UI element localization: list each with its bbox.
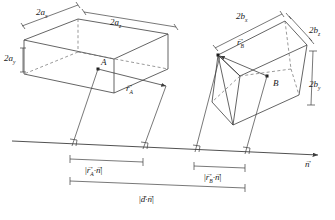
box-b-dimension-ticks [213,11,317,105]
box-a-solid-edges [24,19,168,93]
box-a-hidden-edges [24,19,168,74]
projection-label-d: |→d·→n| [139,195,154,204]
dimension-bar-proj-a [70,155,143,166]
right-angle-markers [70,139,250,154]
dimension-label-b-z: 2bz [309,26,320,37]
dimension-label-a-z: 2az [110,18,121,29]
vector-rb [220,56,267,76]
vector-label-rb: →rB [237,38,244,49]
figure-canvas: 2ax 2az 2ay A →rA 2bx 2bz 2by B →rB →n |… [0,0,335,220]
vector-label-ra: →rA [126,84,133,95]
axis-label-n: →n [305,160,310,169]
ground-axis-line [12,141,318,155]
dimension-label-b-y: 2by [309,80,320,91]
projection-drop-lines [72,56,267,154]
projection-label-a: |→rA·→n| [85,166,102,177]
projection-label-b: |→rB·→n| [204,173,221,184]
dimension-label-a-y: 2ay [4,54,15,65]
dimension-label-a-x: 2ax [36,8,47,19]
diagram-svg [0,0,335,220]
dimension-label-b-x: 2bx [236,12,247,23]
point-label-a: A [101,58,107,67]
point-label-b: B [273,79,279,88]
